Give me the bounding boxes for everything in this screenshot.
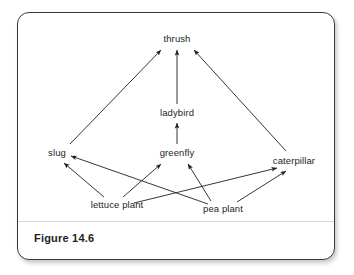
figure-caption: Figure 14.6: [34, 232, 94, 244]
caption-divider: [18, 221, 334, 222]
edge-lettuce_plant-to-slug: [64, 163, 104, 197]
node-greenfly: greenfly: [160, 148, 195, 158]
food-web-diagram: thrush ladybird slug greenfly caterpilla…: [18, 13, 334, 223]
edge-pea_plant-to-greenfly: [188, 164, 211, 201]
node-slug: slug: [48, 148, 66, 158]
edge-caterpillar-to-thrush: [194, 50, 286, 151]
edge-slug-to-thrush: [70, 50, 161, 144]
node-lettuce-plant: lettuce plant: [91, 200, 144, 210]
node-ladybird: ladybird: [160, 108, 194, 118]
node-caterpillar: caterpillar: [273, 156, 315, 166]
caption-bar: Figure 14.6: [18, 221, 334, 259]
edge-pea_plant-to-slug: [71, 156, 208, 204]
figure-card: thrush ladybird slug greenfly caterpilla…: [17, 12, 335, 260]
node-pea-plant: pea plant: [203, 204, 243, 214]
node-thrush: thrush: [163, 34, 190, 44]
